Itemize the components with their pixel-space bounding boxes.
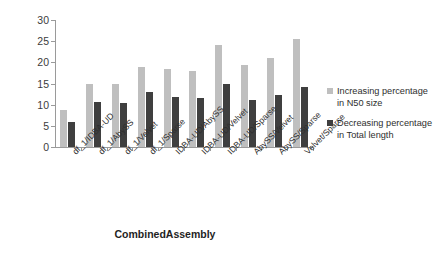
y-axis-tick-label: 0 (43, 142, 49, 153)
x-axis-category-label: IDBA-UD/AbySS (174, 150, 181, 157)
y-axis-tick-label: 25 (37, 36, 49, 47)
bar-decreasing-total-length (68, 122, 75, 147)
x-axis-category-label: df_1/IDBA-UD (71, 150, 78, 157)
legend-item[interactable]: Decreasing percentagein Total length (327, 118, 443, 141)
chart-legend: Increasing percentagein N50 sizeDecreasi… (327, 86, 443, 150)
legend-label-line2: in N50 size (337, 98, 382, 108)
y-axis-tick-label: 15 (37, 78, 49, 89)
y-axis-tick-label: 5 (43, 121, 49, 132)
legend-swatch-decreasing-icon (327, 120, 333, 126)
x-axis-title: CombinedAssembly (0, 228, 330, 240)
legend-label-line1: Decreasing percentage (337, 118, 432, 128)
x-axis-category-label: Velvet/Sparse (303, 150, 310, 157)
legend-label-line1: Increasing percentage (337, 86, 428, 96)
x-axis-category-label: df_1/Sparse (148, 150, 155, 157)
x-axis-category-labels: df_1/IDBA-UDdf_1/AbySSdf_1/Velvetdf_1/Sp… (55, 150, 323, 212)
bar-chart: 051015202530 df_1/IDBA-UDdf_1/AbySSdf_1/… (0, 0, 446, 254)
y-axis-tick-label: 20 (37, 57, 49, 68)
x-axis-category-label: AbySS/Sparse (277, 150, 284, 157)
y-axis-tick-label: 10 (37, 99, 49, 110)
legend-label-line2: in Total length (337, 130, 394, 140)
x-axis-category-label: IDBA-UD/Sparse (226, 150, 233, 157)
x-axis-category-label: AbySS/Velvet (252, 150, 259, 157)
x-axis-category-label: IDBA-UD/Velvet (200, 150, 207, 157)
legend-label: Decreasing percentagein Total length (337, 118, 432, 141)
legend-label: Increasing percentagein N50 size (337, 86, 428, 109)
bar-increasing-n50 (60, 110, 67, 147)
x-axis-category-label: df_1/Velvet (123, 150, 130, 157)
x-axis-category-label: df_1/AbySS (97, 150, 104, 157)
y-axis-tick-label: 30 (37, 15, 49, 26)
legend-swatch-increasing-icon (327, 88, 333, 94)
y-axis-tick-mark (51, 147, 55, 148)
bar-group (55, 20, 81, 147)
legend-item[interactable]: Increasing percentagein N50 size (327, 86, 443, 109)
